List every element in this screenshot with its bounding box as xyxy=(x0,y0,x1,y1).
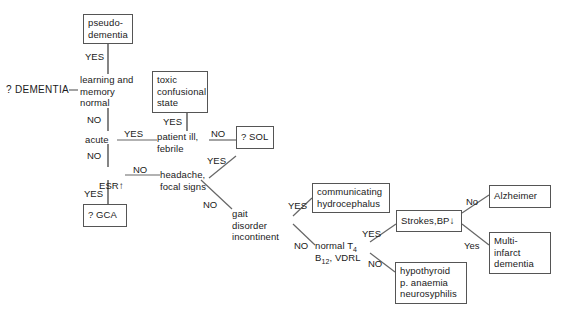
node-hypothyroid[interactable]: hypothyroid p. anaemia neurosyphilis xyxy=(395,262,467,304)
edge-label-yes-toxic: YES xyxy=(163,116,182,127)
node-toxic-confusional-state[interactable]: toxic confusional state xyxy=(152,71,208,113)
edge-label-no-gait: NO xyxy=(294,240,308,251)
edge-label-no-labs: NO xyxy=(368,258,382,269)
root-label: ? DEMENTIA xyxy=(6,84,69,95)
edge-label-no-patient-ill: NO xyxy=(211,128,225,139)
node-pseudo-dementia[interactable]: pseudo- dementia xyxy=(83,14,133,44)
node-sol[interactable]: ? SOL xyxy=(236,126,274,149)
edge-label-no-learning: NO xyxy=(87,114,101,125)
edge-label-no-strokes: No xyxy=(466,196,478,207)
esr-up-arrow-icon: ↑ xyxy=(119,180,124,191)
edge-label-yes-strokes: Yes xyxy=(464,240,480,251)
bp-down-arrow-icon: ↓ xyxy=(450,215,455,226)
edge-label-yes-acute: YES xyxy=(124,128,143,139)
node-multi-infarct-dementia[interactable]: Multi- infarct dementia xyxy=(489,232,551,274)
edge-label-no-acute: NO xyxy=(87,150,101,161)
normal-labs-line2-vdrl: , VDRL xyxy=(329,252,360,263)
strokes-label: Strokes,BP xyxy=(401,215,450,226)
edge-label-yes-gait: YES xyxy=(288,200,307,211)
node-headache-focal-signs: headache, focal signs xyxy=(160,169,206,192)
edge-label-no-esr: NO xyxy=(133,164,147,175)
node-acute: acute xyxy=(85,134,109,146)
node-communicating-hydrocephalus[interactable]: communicating hydrocephalus xyxy=(312,183,390,213)
edge-label-yes-esr: YES xyxy=(84,188,103,199)
node-alzheimer[interactable]: Alzheimer xyxy=(489,185,551,208)
flowchart-canvas: ? DEMENTIA pseudo- dementia learning and… xyxy=(0,0,566,323)
edge-label-no-headache: NO xyxy=(203,199,217,210)
edge-label-yes-sol: YES xyxy=(207,155,226,166)
node-normal-labs: normal T4B12, VDRL xyxy=(315,240,361,263)
node-gca[interactable]: ? GCA xyxy=(83,204,127,227)
flowchart-edges xyxy=(0,0,566,323)
node-strokes-bp[interactable]: Strokes,BP↓ xyxy=(396,210,462,232)
node-gait-disorder-incontinent: gait disorder incontinent xyxy=(232,208,279,243)
edge-label-yes-pseudo: YES xyxy=(85,51,104,62)
node-learning-memory-normal: learning and memory normal xyxy=(80,74,134,109)
edge-label-yes-labs: YES xyxy=(362,228,381,239)
node-patient-ill-febrile: patient ill, febrile xyxy=(157,131,198,154)
normal-labs-line1: normal T xyxy=(315,240,353,251)
